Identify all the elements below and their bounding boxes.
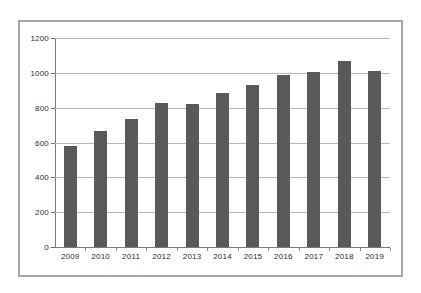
gridline-1200 (55, 38, 390, 39)
x-tick-label-2014: 2014 (213, 252, 232, 261)
x-tick-label-2016: 2016 (274, 252, 293, 261)
bar-2010 (94, 131, 107, 247)
x-tick-label-2018: 2018 (335, 252, 354, 261)
y-tick-mark-800 (51, 108, 55, 109)
x-tick-mark-5 (238, 248, 239, 251)
x-tick-label-2017: 2017 (305, 252, 324, 261)
gridline-0 (55, 247, 390, 248)
x-tick-mark-7 (299, 248, 300, 251)
y-axis-tick-labels: 020040060080010001200 (0, 0, 49, 293)
bar-2012 (155, 103, 168, 247)
x-tick-label-2011: 2011 (122, 252, 140, 261)
x-tick-label-2012: 2012 (152, 252, 171, 261)
x-tick-label-2015: 2015 (244, 252, 263, 261)
bar-2014 (216, 93, 229, 247)
x-tick-mark-4 (207, 248, 208, 251)
x-tick-mark-3 (177, 248, 178, 251)
bar-2019 (368, 71, 381, 247)
y-tick-label-400: 400 (35, 173, 49, 182)
y-tick-label-0: 0 (44, 243, 49, 252)
y-tick-mark-1000 (51, 73, 55, 74)
y-tick-mark-600 (51, 143, 55, 144)
chart-screenshot: 020040060080010001200 200920102011201220… (0, 0, 421, 293)
y-tick-label-1200: 1200 (30, 34, 49, 43)
y-tick-mark-0 (51, 247, 55, 248)
y-tick-mark-400 (51, 177, 55, 178)
bar-2009 (64, 146, 77, 247)
y-tick-label-800: 800 (35, 103, 49, 112)
x-tick-mark-10 (390, 248, 391, 251)
x-tick-mark-2 (146, 248, 147, 251)
x-tick-label-2013: 2013 (183, 252, 202, 261)
y-tick-label-200: 200 (35, 208, 49, 217)
bar-2017 (307, 72, 320, 247)
x-tick-mark-6 (268, 248, 269, 251)
bar-2018 (338, 61, 351, 247)
bar-2013 (186, 104, 199, 247)
y-tick-label-600: 600 (35, 138, 49, 147)
y-tick-mark-1200 (51, 38, 55, 39)
x-tick-mark-9 (360, 248, 361, 251)
y-tick-mark-200 (51, 212, 55, 213)
plot-area (55, 38, 390, 247)
x-tick-mark-1 (116, 248, 117, 251)
bar-2015 (246, 85, 259, 247)
x-tick-label-2019: 2019 (365, 252, 384, 261)
x-tick-label-2010: 2010 (91, 252, 110, 261)
x-tick-label-2009: 2009 (61, 252, 80, 261)
y-tick-label-1000: 1000 (30, 68, 49, 77)
x-tick-mark-8 (329, 248, 330, 251)
bar-2016 (277, 75, 290, 247)
bar-2011 (125, 119, 138, 247)
x-tick-mark-0 (85, 248, 86, 251)
